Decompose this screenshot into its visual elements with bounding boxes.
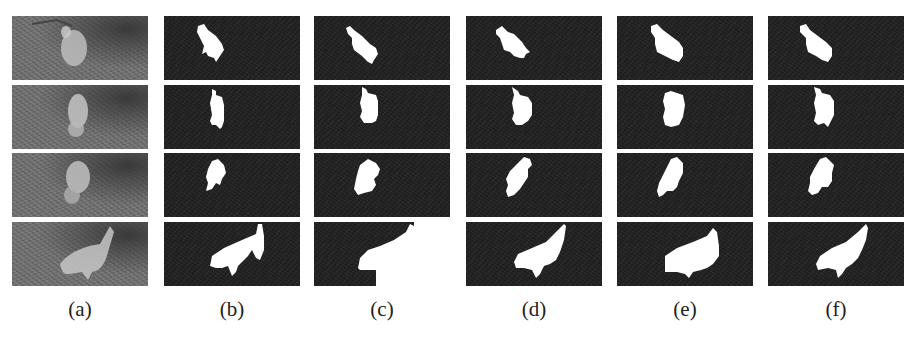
mask-c-2: [314, 85, 450, 149]
column-d-masks: [466, 16, 602, 290]
mask-f-1: [768, 16, 904, 80]
column-label-e: (e): [617, 297, 753, 322]
dog-mask-shape: [314, 153, 450, 217]
dog-mask-shape: [466, 85, 602, 149]
dog-mask-shape: [164, 222, 300, 286]
mask-e-1: [617, 16, 753, 80]
dog-mask-shape: [314, 222, 450, 286]
mask-f-3: [768, 153, 904, 217]
mask-c-4: [314, 222, 450, 286]
input-frame-4: [12, 222, 148, 286]
column-c-masks: [314, 16, 450, 290]
mask-f-4: [768, 222, 904, 286]
mask-d-2: [466, 85, 602, 149]
column-label-a: (a): [12, 297, 148, 322]
mask-e-3: [617, 153, 753, 217]
dog-mask-shape: [164, 85, 300, 149]
column-label-d: (d): [466, 297, 602, 322]
dog-mask-shape: [768, 16, 904, 80]
dog-mask-shape: [768, 153, 904, 217]
dog-mask-shape: [466, 222, 602, 286]
dog-mask-shape: [314, 16, 450, 80]
dog-photo-icon: [12, 222, 148, 286]
mask-e-2: [617, 85, 753, 149]
column-label-b: (b): [164, 297, 300, 322]
mask-b-1: [164, 16, 300, 80]
mask-d-1: [466, 16, 602, 80]
input-frame-3: [12, 153, 148, 217]
dog-mask-shape: [466, 16, 602, 80]
dog-mask-shape: [164, 16, 300, 80]
dog-mask-shape: [314, 85, 450, 149]
column-label-c: (c): [314, 297, 450, 322]
dog-mask-shape: [617, 16, 753, 80]
mask-e-4: [617, 222, 753, 286]
dog-mask-shape: [617, 153, 753, 217]
column-label-f: (f): [768, 297, 904, 322]
mask-f-2: [768, 85, 904, 149]
dog-mask-shape: [617, 85, 753, 149]
column-f-masks: [768, 16, 904, 290]
mask-b-3: [164, 153, 300, 217]
dog-mask-shape: [768, 85, 904, 149]
column-e-masks: [617, 16, 753, 290]
dog-mask-shape: [164, 153, 300, 217]
mask-d-4: [466, 222, 602, 286]
input-frame-1: [12, 16, 148, 80]
mask-c-3: [314, 153, 450, 217]
column-a-input-frames: [12, 16, 148, 290]
dog-photo-icon: [12, 85, 148, 149]
mask-c-1: [314, 16, 450, 80]
column-b-masks: [164, 16, 300, 290]
mask-d-3: [466, 153, 602, 217]
dog-mask-shape: [617, 222, 753, 286]
mask-b-4: [164, 222, 300, 286]
dog-photo-icon: [12, 16, 148, 80]
mask-b-2: [164, 85, 300, 149]
input-frame-2: [12, 85, 148, 149]
dog-mask-shape: [768, 222, 904, 286]
dog-photo-icon: [12, 153, 148, 217]
dog-mask-shape: [466, 153, 602, 217]
